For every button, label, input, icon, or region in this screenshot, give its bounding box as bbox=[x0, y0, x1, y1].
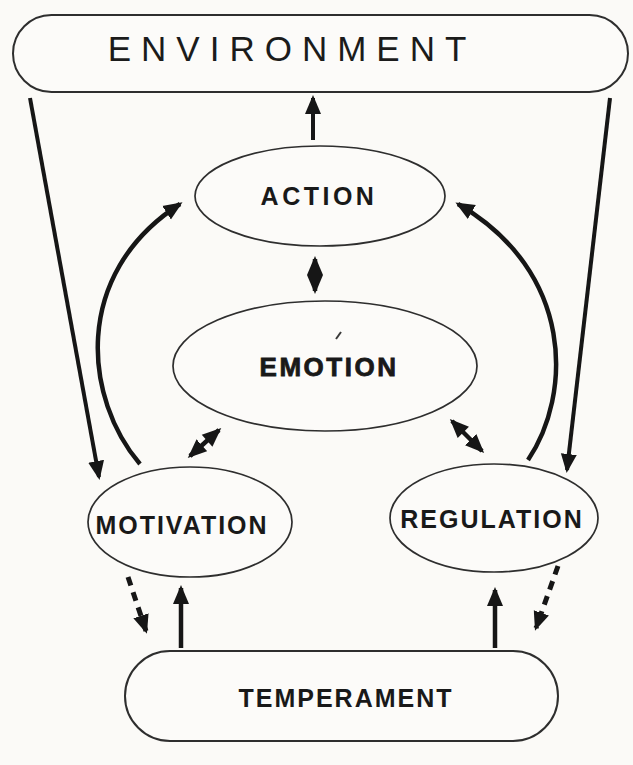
arrow-emotion-regulation-bidirectional bbox=[452, 421, 482, 451]
arrow-environment-to-motivation bbox=[30, 98, 99, 477]
arrow-motivation-to-temperament-dashed bbox=[128, 577, 146, 631]
environment-label: ENVIRONMENT bbox=[108, 29, 477, 68]
arrow-emotion-motivation-bidirectional bbox=[190, 430, 219, 456]
temperament-label: TEMPERAMENT bbox=[238, 684, 453, 712]
arrow-regulation-to-temperament-dashed bbox=[536, 566, 558, 628]
arrow-regulation-to-action bbox=[458, 204, 556, 460]
temperament-model-diagram: ENVIRONMENT ACTION EMOTION MOTIVATION RE… bbox=[0, 0, 633, 765]
arrow-environment-to-regulation bbox=[567, 98, 610, 470]
motivation-label: MOTIVATION bbox=[95, 511, 268, 539]
regulation-label: REGULATION bbox=[400, 505, 583, 533]
emotion-label: EMOTION bbox=[260, 352, 399, 382]
action-label: ACTION bbox=[261, 182, 378, 210]
diagram-page: ENVIRONMENT ACTION EMOTION MOTIVATION RE… bbox=[0, 0, 633, 765]
arrow-motivation-to-action bbox=[98, 204, 180, 464]
